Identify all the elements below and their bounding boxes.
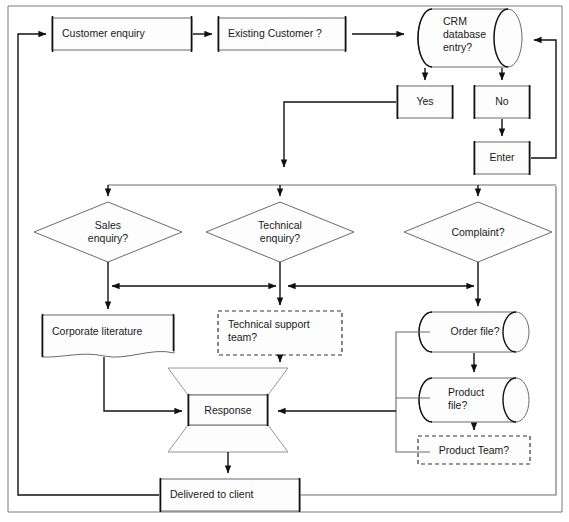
node-product-team-shape[interactable] <box>418 436 530 464</box>
node-yes-shape[interactable] <box>397 85 453 119</box>
node-delivered-to-client-shape[interactable] <box>160 478 300 512</box>
node-no-shape[interactable] <box>474 85 530 119</box>
node-order-file-shape[interactable] <box>419 312 529 352</box>
node-crm-database-shape[interactable] <box>418 9 522 67</box>
flowchart-canvas: Customer enquiry Existing Customer ? CRM… <box>0 0 569 522</box>
node-technical-support-team-shape[interactable] <box>218 311 342 355</box>
edge-literature-to-response <box>104 357 182 411</box>
edge-delivered-feedback <box>18 34 159 495</box>
node-corporate-literature-shape[interactable] <box>42 314 174 357</box>
node-complaint-shape[interactable] <box>404 202 552 262</box>
node-sales-enquiry-shape[interactable] <box>34 202 182 262</box>
node-technical-enquiry-shape[interactable] <box>206 202 354 262</box>
edge-yes-down <box>284 102 396 167</box>
node-existing-customer-shape[interactable] <box>218 16 346 52</box>
node-response-shape[interactable] <box>168 368 288 452</box>
flowchart-vector-layer <box>0 0 569 522</box>
node-customer-enquiry-shape[interactable] <box>52 16 192 52</box>
edge-enter-to-crm <box>531 40 556 158</box>
node-enter-shape[interactable] <box>474 141 530 175</box>
node-product-file-shape[interactable] <box>419 378 529 422</box>
